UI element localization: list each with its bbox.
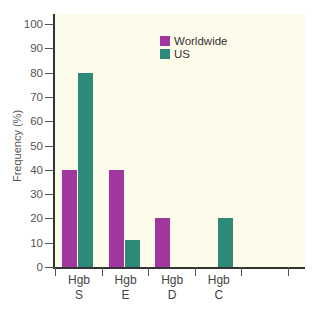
x-tick xyxy=(288,267,289,276)
y-tick xyxy=(45,121,54,122)
bar-worldwide xyxy=(62,170,77,267)
y-axis xyxy=(53,14,55,268)
bar-worldwide xyxy=(109,170,124,267)
y-tick xyxy=(45,48,54,49)
x-category-label: HgbE xyxy=(103,273,149,303)
bar-us xyxy=(78,73,93,267)
y-tick xyxy=(45,24,54,25)
y-tick-label: 20 xyxy=(3,212,43,224)
frequency-bar-chart: 0102030405060708090100 HgbSHgbEHgbDHgbC … xyxy=(0,0,315,315)
y-tick xyxy=(45,194,54,195)
bar-worldwide xyxy=(155,218,170,267)
bar-us xyxy=(218,218,233,267)
y-tick-label: 100 xyxy=(3,18,43,30)
y-tick xyxy=(45,73,54,74)
legend-label: US xyxy=(174,48,190,60)
y-tick-label: 70 xyxy=(3,91,43,103)
legend: Worldwide US xyxy=(160,34,227,60)
x-category-label: HgbC xyxy=(196,273,242,303)
legend-label: Worldwide xyxy=(174,35,227,47)
legend-item-us: US xyxy=(160,47,227,60)
y-tick xyxy=(45,218,54,219)
x-category-label: HgbS xyxy=(56,273,102,303)
y-tick xyxy=(45,146,54,147)
x-category-label: HgbD xyxy=(149,273,195,303)
worldwide-swatch xyxy=(160,36,170,46)
y-tick-label: 90 xyxy=(3,42,43,54)
y-tick-label: 40 xyxy=(3,164,43,176)
y-tick-label: 10 xyxy=(3,237,43,249)
y-tick-label: 50 xyxy=(3,140,43,152)
us-swatch xyxy=(160,49,170,59)
y-tick xyxy=(45,243,54,244)
x-axis xyxy=(53,267,305,269)
y-axis-title: Frequency (%) xyxy=(11,106,23,186)
y-tick xyxy=(45,170,54,171)
y-tick-label: 60 xyxy=(3,115,43,127)
bar-us xyxy=(125,240,140,267)
y-tick-label: 80 xyxy=(3,67,43,79)
y-tick-label: 30 xyxy=(3,188,43,200)
y-tick-label: 0 xyxy=(3,261,43,273)
y-tick xyxy=(45,267,54,268)
legend-item-worldwide: Worldwide xyxy=(160,34,227,47)
y-tick xyxy=(45,97,54,98)
